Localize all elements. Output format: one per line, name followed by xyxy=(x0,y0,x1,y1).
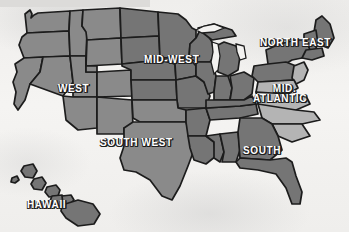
region-mid-west[interactable] xyxy=(120,8,254,108)
region-south-west[interactable] xyxy=(63,96,194,200)
us-regions-map: .st{stroke:#1c1c1c;stroke-width:1.7;stro… xyxy=(0,0,349,232)
map-graphic: .st{stroke:#1c1c1c;stroke-width:1.7;stro… xyxy=(0,0,349,232)
region-west[interactable] xyxy=(13,8,132,110)
region-hawaii[interactable] xyxy=(11,164,100,226)
